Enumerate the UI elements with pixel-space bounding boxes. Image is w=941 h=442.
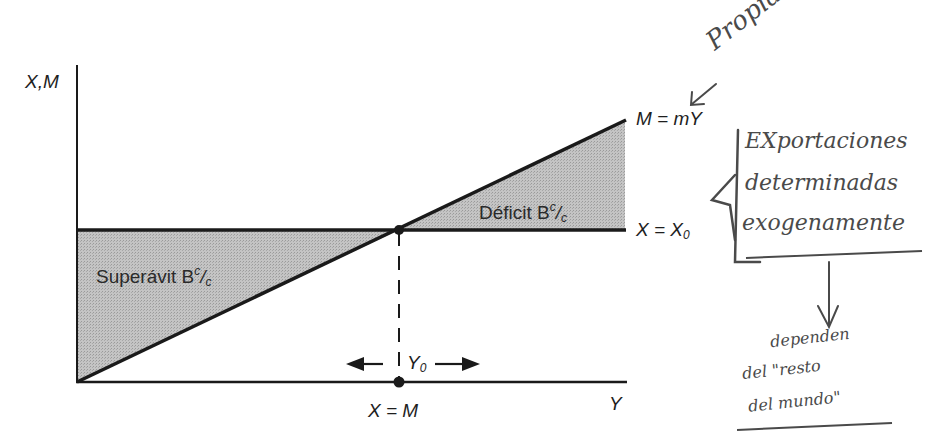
handwritten-underline-top [746, 251, 922, 258]
income-label-subscript: 0 [420, 361, 427, 375]
exports-label-subscript: 0 [683, 228, 690, 242]
surplus-label-sub: c [206, 275, 212, 289]
equilibrium-point [394, 225, 404, 235]
left-arrow-icon [346, 357, 383, 371]
x-axis-label: Y [609, 393, 622, 415]
handwritten-box-line-3: exogenamente [742, 210, 905, 235]
handwritten-down-arrow-icon [818, 262, 838, 327]
imports-line-label: M = mY [636, 108, 702, 130]
deficit-label-sub: c [561, 211, 567, 225]
equilibrium-income-point [394, 377, 405, 388]
surplus-label-text: Superávit B [96, 266, 194, 287]
right-arrow-icon [435, 357, 480, 371]
handwritten-box-line-1: EXportaciones [745, 128, 908, 153]
handwritten-arrow-icon [691, 84, 716, 105]
deficit-label-text: Déficit B [479, 202, 550, 223]
y-axis-label: X,M [25, 71, 59, 93]
surplus-label: Superávit Bc/c [96, 264, 212, 289]
equilibrium-condition-label: X = M [368, 400, 418, 422]
deficit-label: Déficit Bc/c [479, 200, 567, 225]
handwritten-box-line-2: determinadas [745, 170, 898, 195]
handwritten-underline-bottom [737, 423, 892, 430]
exports-line-label: X = X0 [636, 219, 690, 242]
exports-label-text: X = X [636, 219, 683, 240]
equilibrium-income-label: Y0 [407, 352, 426, 375]
income-label-text: Y [407, 352, 420, 373]
